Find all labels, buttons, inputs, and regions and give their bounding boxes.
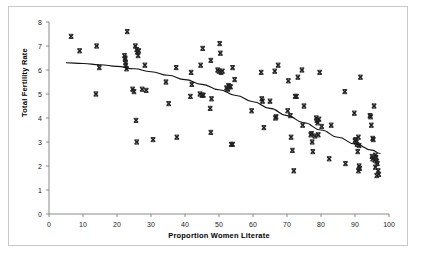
data-point	[327, 157, 332, 161]
data-point	[300, 123, 305, 127]
data-point	[190, 82, 195, 86]
data-point	[198, 63, 203, 67]
data-point	[208, 106, 213, 110]
y-tick-label: 3	[38, 139, 42, 146]
data-point	[125, 30, 130, 34]
data-point	[217, 42, 222, 46]
x-tick-label: 50	[215, 221, 223, 228]
scatter-plot-svg: 012345678 0102030405060708090100	[0, 0, 425, 260]
data-point-group	[69, 30, 381, 178]
y-tick-label: 4	[38, 115, 42, 122]
x-tick-label: 10	[79, 221, 87, 228]
data-point	[285, 109, 290, 113]
data-point	[249, 109, 254, 113]
data-point	[232, 78, 237, 82]
data-point	[209, 130, 214, 134]
y-tick-label: 6	[38, 67, 42, 74]
figure-container: 012345678 0102030405060708090100 Total F…	[0, 0, 425, 260]
data-point	[97, 66, 102, 70]
data-point	[329, 123, 334, 127]
x-tick-label: 30	[147, 221, 155, 228]
y-tick-label: 0	[38, 211, 42, 218]
data-point	[94, 92, 99, 96]
y-axis-tick-group: 012345678	[38, 19, 49, 218]
data-point	[310, 140, 315, 144]
data-point	[262, 126, 267, 130]
x-tick-label: 100	[383, 221, 395, 228]
data-point	[372, 104, 377, 108]
data-point	[352, 111, 357, 115]
data-point	[343, 90, 348, 94]
data-point	[140, 87, 145, 91]
data-point	[292, 169, 297, 173]
data-point	[209, 97, 214, 101]
data-point	[259, 70, 264, 74]
data-point	[143, 63, 148, 67]
data-point	[218, 51, 223, 55]
y-tick-label: 2	[38, 163, 42, 170]
x-tick-label: 40	[181, 221, 189, 228]
x-tick-label: 90	[351, 221, 359, 228]
data-point	[272, 69, 277, 73]
data-point	[276, 63, 281, 67]
data-point	[164, 80, 169, 84]
data-point	[343, 162, 348, 166]
x-tick-label: 60	[249, 221, 257, 228]
y-axis-title: Total Fertility Rate	[20, 13, 29, 153]
y-tick-label: 8	[38, 19, 42, 26]
data-point	[355, 150, 360, 154]
data-point	[286, 79, 291, 83]
x-tick-label: 70	[283, 221, 291, 228]
x-tick-label: 20	[113, 221, 121, 228]
data-point	[144, 88, 149, 92]
y-tick-label: 1	[38, 187, 42, 194]
data-point	[134, 118, 139, 122]
data-point	[296, 75, 301, 79]
data-point	[289, 135, 294, 139]
data-point	[230, 66, 235, 70]
data-point	[369, 123, 374, 127]
data-point	[94, 44, 99, 48]
data-point	[317, 70, 322, 74]
data-point	[174, 66, 179, 70]
y-tick-label: 5	[38, 91, 42, 98]
data-point	[358, 75, 363, 79]
data-point	[319, 124, 324, 128]
x-axis-tick-group: 0102030405060708090100	[47, 214, 395, 228]
data-point	[290, 148, 295, 152]
data-point	[151, 138, 156, 142]
data-point	[302, 104, 307, 108]
data-point	[166, 102, 171, 106]
data-point	[77, 49, 82, 53]
data-point	[175, 135, 180, 139]
data-point	[300, 68, 305, 72]
y-tick-label: 7	[38, 43, 42, 50]
data-point	[188, 94, 193, 98]
data-point	[134, 140, 139, 144]
x-tick-label: 0	[47, 221, 51, 228]
data-point	[311, 150, 316, 154]
trend-curve	[66, 63, 381, 154]
data-point	[69, 34, 74, 38]
data-point	[200, 46, 205, 50]
data-point	[189, 70, 194, 74]
data-point	[209, 58, 214, 62]
chart-canvas: 012345678 0102030405060708090100	[0, 0, 425, 260]
x-tick-label: 80	[317, 221, 325, 228]
data-point	[268, 99, 273, 103]
x-axis-title: Proportion Women Literate	[49, 231, 389, 240]
